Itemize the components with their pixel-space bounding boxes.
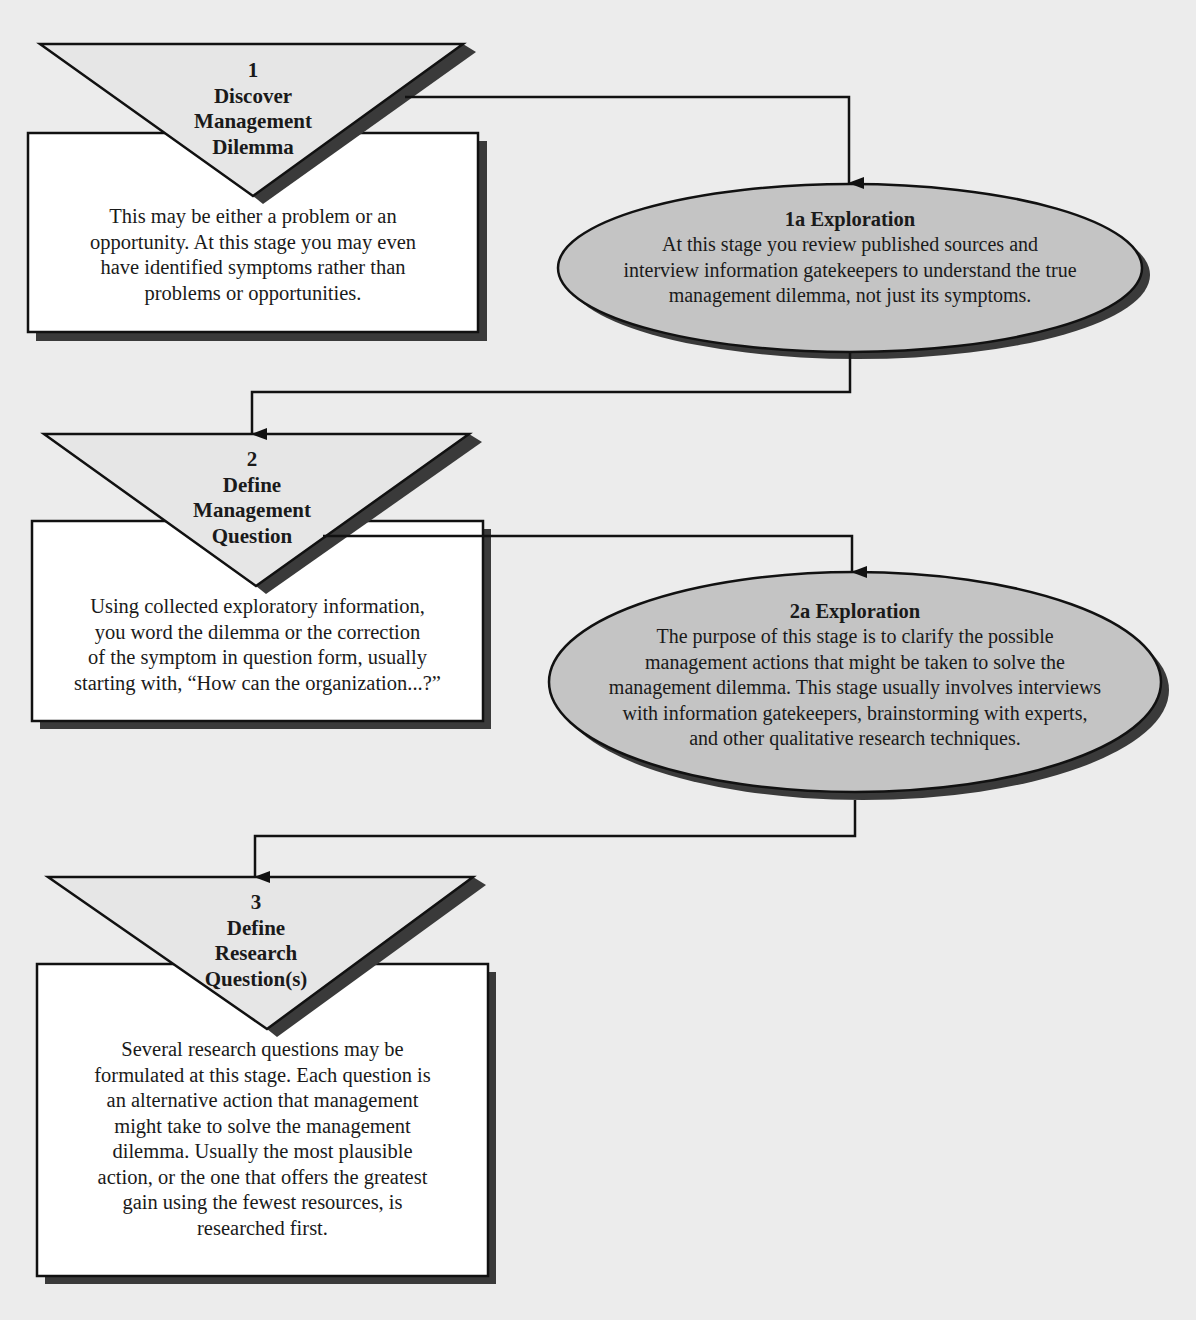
exploration-2a-title: 2a Exploration — [555, 598, 1155, 624]
step-2-title-line: Define — [152, 473, 352, 499]
exploration-1a-desc-line: At this stage you review published sourc… — [560, 232, 1140, 258]
step-2-desc-line: starting with, “How can the organization… — [32, 671, 483, 697]
step-2-desc-line: of the symptom in question form, usually — [32, 645, 483, 671]
step-3-desc-line: an alternative action that management — [37, 1088, 488, 1114]
exploration-1a-desc-line: management dilemma, not just its symptom… — [560, 283, 1140, 309]
step-3-desc-line: action, or the one that offers the great… — [37, 1165, 488, 1191]
exploration-1a-desc-line: interview information gatekeepers to und… — [560, 258, 1140, 284]
step-1-number: 1 — [153, 58, 353, 84]
step-2-desc-line: you word the dilemma or the correction — [32, 620, 483, 646]
connector-2a-to-step3 — [255, 800, 855, 877]
exploration-2a-desc-line: The purpose of this stage is to clarify … — [555, 624, 1155, 650]
step-2-title-line: Management — [152, 498, 352, 524]
step-1-desc-line: opportunity. At this stage you may even — [28, 230, 478, 256]
step-3-title-line: Research — [156, 941, 356, 967]
step-3-desc-line: gain using the fewest resources, is — [37, 1190, 488, 1216]
step-1-title-line: Discover — [153, 84, 353, 110]
exploration-2a-desc-line: with information gatekeepers, brainstorm… — [555, 701, 1155, 727]
step-3-title-line: Question(s) — [156, 967, 356, 993]
exploration-1a-text: 1a Exploration At this stage you review … — [560, 206, 1140, 309]
exploration-2a-text: 2a Exploration The purpose of this stage… — [555, 598, 1155, 752]
step-1-title: 1 Discover Management Dilemma — [153, 58, 353, 160]
exploration-2a-desc-line: management dilemma. This stage usually i… — [555, 675, 1155, 701]
exploration-1a-title: 1a Exploration — [560, 206, 1140, 232]
step-3-desc-line: formulated at this stage. Each question … — [37, 1063, 488, 1089]
step-3-title: 3 Define Research Question(s) — [156, 890, 356, 992]
step-3-desc-line: Several research questions may be — [37, 1037, 488, 1063]
step-2-title-line: Question — [152, 524, 352, 550]
step-1-desc-line: This may be either a problem or an — [28, 204, 478, 230]
step-2-title: 2 Define Management Question — [152, 447, 352, 549]
connector-1a-to-step2 — [252, 352, 850, 434]
exploration-2a-desc-line: management actions that might be taken t… — [555, 650, 1155, 676]
step-1-title-line: Dilemma — [153, 135, 353, 161]
step-3-title-line: Define — [156, 916, 356, 942]
step-3-description: Several research questions may be formul… — [37, 1037, 488, 1241]
step-3-desc-line: might take to solve the management — [37, 1114, 488, 1140]
step-3-desc-line: researched first. — [37, 1216, 488, 1242]
step-1-desc-line: have identified symptoms rather than — [28, 255, 478, 281]
step-1-desc-line: problems or opportunities. — [28, 281, 478, 307]
step-3-desc-line: dilemma. Usually the most plausible — [37, 1139, 488, 1165]
step-2-description: Using collected exploratory information,… — [32, 594, 483, 696]
step-2-desc-line: Using collected exploratory information, — [32, 594, 483, 620]
step-2-number: 2 — [152, 447, 352, 473]
exploration-2a-desc-line: and other qualitative research technique… — [555, 726, 1155, 752]
step-1-description: This may be either a problem or an oppor… — [28, 204, 478, 306]
step-1-title-line: Management — [153, 109, 353, 135]
step-3-number: 3 — [156, 890, 356, 916]
